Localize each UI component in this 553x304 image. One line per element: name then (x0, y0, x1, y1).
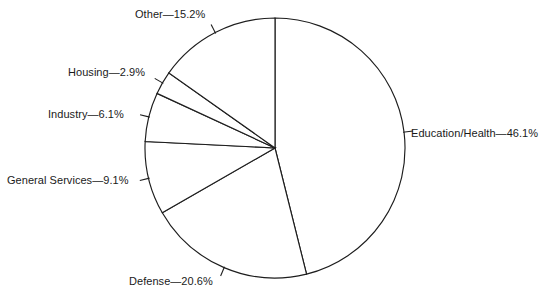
leader-tick-defense (221, 267, 225, 276)
pie-label-education-health: Education/Health—46.1% (411, 127, 538, 140)
leader-tick-housing (155, 78, 164, 83)
pie-label-general-services: General Services—9.1% (7, 174, 129, 187)
pie-label-defense: Defense—20.6% (129, 275, 213, 288)
pie-label-industry: Industry—6.1% (48, 108, 124, 121)
pie-label-housing: Housing—2.9% (68, 66, 145, 79)
pie-chart-figure: Education/Health—46.1% Defense—20.6% Gen… (0, 0, 553, 304)
pie-label-other: Other—15.2% (135, 8, 205, 21)
leader-tick-other (211, 25, 216, 34)
leader-tick-general-services (140, 178, 150, 180)
leader-tick-industry (140, 115, 150, 117)
pie-slices-group (145, 18, 405, 278)
pie-chart-svg (0, 0, 553, 304)
